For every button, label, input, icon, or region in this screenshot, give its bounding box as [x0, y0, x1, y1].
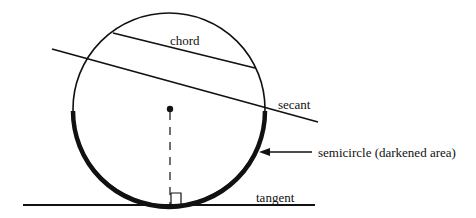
- semicircle-darkened-arc: [73, 111, 265, 207]
- chord-label: chord: [170, 33, 200, 48]
- tangent-label: tangent: [256, 190, 295, 205]
- secant-label: secant: [278, 97, 311, 112]
- right-angle-marker: [171, 193, 181, 205]
- center-point: [167, 106, 173, 112]
- arrowhead-icon: [259, 148, 270, 156]
- semicircle-label: semicircle (darkened area): [318, 145, 456, 160]
- circle-diagram: chord secant semicircle (darkened area) …: [0, 0, 476, 218]
